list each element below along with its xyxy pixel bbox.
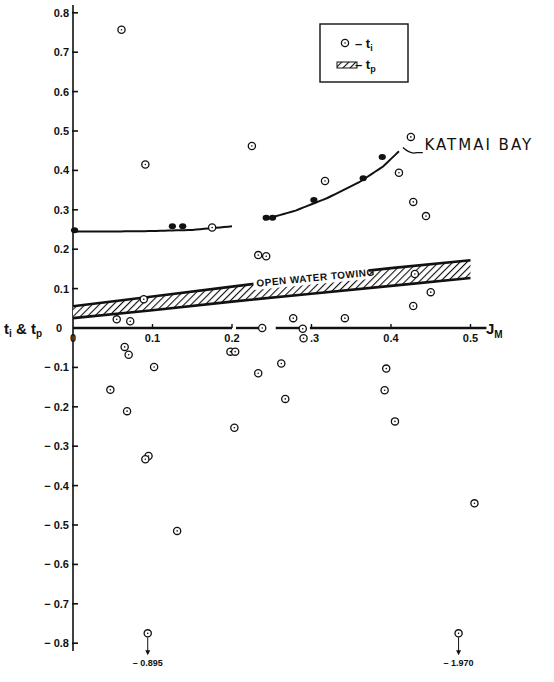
y-tick-label: − 0.2 (44, 401, 69, 413)
y-axis-title: ti & tp (4, 320, 42, 339)
hatch-swatch-icon (337, 62, 357, 68)
ti-point (422, 213, 429, 220)
ti-point (300, 335, 307, 342)
x-axis: 00.10.2.30.40.5 (70, 324, 486, 344)
ti-point (282, 395, 289, 402)
katmai-bay-curve (73, 148, 423, 232)
y-tick-label: 0.4 (54, 164, 70, 176)
katmai-point (263, 215, 270, 221)
y-tick-label: 0 (56, 322, 62, 334)
y-tick-label: − 0.4 (44, 480, 70, 492)
y-tick-label: 0.1 (54, 283, 69, 295)
katmai-point (169, 223, 176, 229)
x-tick-label: 0.5 (463, 332, 478, 344)
y-tick-label: 0.3 (54, 204, 69, 216)
ti-point (381, 387, 388, 394)
ti-point (140, 296, 147, 303)
y-tick-label: − 0.1 (44, 361, 69, 373)
ti-point (263, 253, 270, 260)
x-axis-title: JM (486, 320, 503, 340)
ti-point (231, 424, 238, 431)
y-axis: 0.80.70.60.50.40.30.20.1− 0.1− 0.2− 0.3−… (44, 5, 78, 651)
ti-point (142, 161, 149, 168)
ti-point (299, 325, 306, 332)
ti-point (341, 315, 348, 322)
ti-point (455, 630, 462, 637)
ti-point (174, 527, 181, 534)
ti-point (142, 456, 149, 463)
ti-point (410, 302, 417, 309)
ti-point (232, 348, 239, 355)
ti-point (144, 630, 151, 637)
ti-point (118, 26, 125, 33)
x-tick-label: 0 (70, 332, 76, 344)
ti-point (321, 177, 328, 184)
ti-point (209, 224, 216, 231)
y-tick-label: − 0.5 (44, 519, 69, 531)
ti-point (411, 270, 418, 277)
y-tick-label: − 0.3 (44, 440, 69, 452)
annotations: KATMAI BAY (424, 136, 533, 154)
legend-ti-label: – ti (355, 36, 373, 53)
off-scale-label: – 0.895 (133, 658, 163, 668)
ti-point (259, 324, 266, 331)
katmai-point (360, 175, 367, 181)
y-tick-label: 0.6 (54, 86, 69, 98)
ti-point (427, 289, 434, 296)
y-tick-label: 0.5 (54, 125, 69, 137)
axis-titles: ti & tpJM (4, 320, 503, 340)
ti-point (395, 169, 402, 176)
katmai-bay-points (71, 154, 386, 233)
legend-box (320, 24, 408, 82)
y-tick-label: − 0.8 (44, 637, 69, 649)
katmai-point (269, 215, 276, 221)
ti-point (391, 418, 398, 425)
katmai-point (179, 223, 186, 229)
ti-point (127, 318, 134, 325)
ti-point (383, 365, 390, 372)
y-tick-label: − 0.6 (44, 558, 69, 570)
off-scale-label: – 1.970 (444, 658, 474, 668)
ti-point (290, 315, 297, 322)
x-tick-label: .3 (310, 332, 319, 344)
ti-point (248, 142, 255, 149)
ti-point (113, 316, 120, 323)
ti-point (278, 360, 285, 367)
ti-point (107, 386, 114, 393)
off-scale-markers: – 0.895– 1.970 (133, 630, 474, 669)
ti-point (125, 351, 132, 358)
katmai-point (310, 197, 317, 203)
chart-canvas: 0.80.70.60.50.40.30.20.1− 0.1− 0.2− 0.3−… (0, 0, 554, 682)
open-water-towing-band: OPEN WATER TOWING (73, 260, 471, 318)
y-tick-label: 0.2 (54, 243, 69, 255)
x-tick-label: 0.1 (145, 332, 160, 344)
arrow-down-icon (145, 650, 150, 655)
ti-point (255, 370, 262, 377)
arrow-down-icon (456, 650, 461, 655)
y-tick-label: 0.7 (54, 46, 69, 58)
ti-point (150, 363, 157, 370)
ti-point (255, 252, 262, 259)
x-tick-label: 0.2 (224, 332, 239, 344)
ti-point (471, 500, 478, 507)
katmai-point (379, 154, 386, 160)
katmai-point (71, 227, 78, 233)
ti-point (121, 343, 128, 350)
y-tick-label: − 0.7 (44, 598, 69, 610)
legend: – ti– tp (320, 24, 408, 82)
ti-point (407, 133, 414, 140)
ti-point (341, 39, 348, 46)
x-tick-label: 0.4 (383, 332, 399, 344)
ti-point (410, 198, 417, 205)
katmai-bay-label: KATMAI BAY (424, 136, 533, 154)
ti-point (123, 408, 130, 415)
y-tick-label: 0.8 (54, 7, 69, 19)
